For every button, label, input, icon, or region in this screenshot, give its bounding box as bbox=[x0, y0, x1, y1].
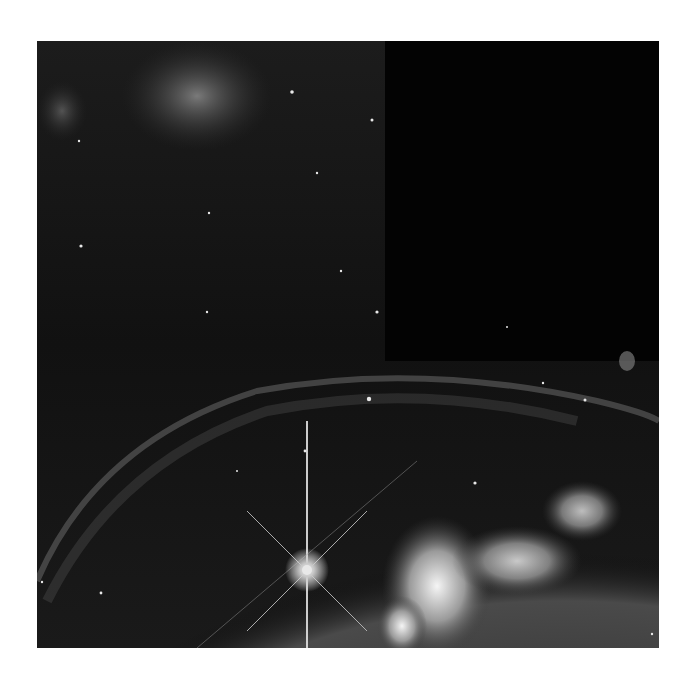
nebula-photo: Bubble Nebula bbox=[37, 41, 659, 648]
nebula-image bbox=[37, 41, 659, 648]
